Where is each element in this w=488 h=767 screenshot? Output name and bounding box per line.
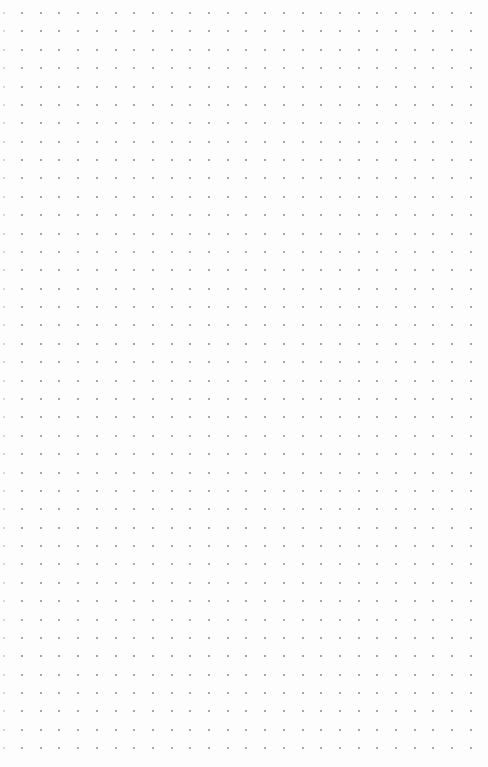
edge-dot — [3, 159, 5, 161]
grid-dot — [302, 729, 304, 731]
grid-dot — [58, 545, 60, 547]
grid-dot — [302, 122, 304, 124]
grid-dot — [264, 674, 266, 676]
grid-dot — [133, 288, 135, 290]
grid-dot — [40, 563, 42, 565]
grid-dot — [302, 251, 304, 253]
grid-dot — [227, 141, 229, 143]
grid-dot — [115, 86, 117, 88]
grid-dot — [339, 67, 341, 69]
grid-dot — [96, 233, 98, 235]
grid-dot — [414, 747, 416, 749]
grid-dot — [227, 30, 229, 32]
grid-dot — [189, 416, 191, 418]
grid-dot — [470, 710, 472, 712]
grid-dot — [171, 545, 173, 547]
grid-dot — [414, 233, 416, 235]
grid-dot — [414, 214, 416, 216]
grid-dot — [152, 692, 154, 694]
edge-dot — [3, 177, 5, 179]
grid-dot — [432, 214, 434, 216]
grid-dot — [302, 214, 304, 216]
grid-dot — [470, 30, 472, 32]
grid-dot — [21, 86, 23, 88]
grid-dot — [171, 747, 173, 749]
grid-dot — [339, 600, 341, 602]
grid-dot — [339, 49, 341, 51]
grid-dot — [376, 361, 378, 363]
grid-dot — [320, 582, 322, 584]
grid-dot — [133, 12, 135, 14]
grid-dot — [21, 563, 23, 565]
grid-dot — [208, 361, 210, 363]
grid-dot — [115, 159, 117, 161]
grid-dot — [395, 527, 397, 529]
grid-dot — [189, 582, 191, 584]
grid-dot — [470, 269, 472, 271]
grid-dot — [96, 435, 98, 437]
grid-dot — [40, 508, 42, 510]
grid-dot — [376, 306, 378, 308]
grid-dot — [152, 214, 154, 216]
grid-dot — [264, 361, 266, 363]
grid-dot — [171, 600, 173, 602]
grid-dot — [358, 416, 360, 418]
grid-dot — [283, 380, 285, 382]
grid-dot — [283, 527, 285, 529]
grid-dot — [58, 563, 60, 565]
grid-dot — [189, 527, 191, 529]
grid-dot — [227, 177, 229, 179]
grid-dot — [115, 435, 117, 437]
grid-dot — [320, 12, 322, 14]
grid-dot — [96, 472, 98, 474]
grid-dot — [58, 692, 60, 694]
grid-dot — [395, 159, 397, 161]
grid-dot — [115, 288, 117, 290]
grid-dot — [283, 416, 285, 418]
grid-dot — [264, 30, 266, 32]
grid-dot — [96, 508, 98, 510]
grid-dot — [40, 67, 42, 69]
grid-dot — [451, 655, 453, 657]
grid-dot — [302, 453, 304, 455]
grid-dot — [470, 637, 472, 639]
grid-dot — [283, 122, 285, 124]
grid-dot — [320, 453, 322, 455]
grid-dot — [21, 729, 23, 731]
grid-dot — [227, 416, 229, 418]
grid-dot — [339, 269, 341, 271]
grid-dot — [264, 637, 266, 639]
grid-dot — [77, 619, 79, 621]
grid-dot — [283, 343, 285, 345]
grid-dot — [133, 343, 135, 345]
grid-dot — [40, 416, 42, 418]
grid-dot — [58, 490, 60, 492]
grid-dot — [451, 490, 453, 492]
grid-dot — [58, 380, 60, 382]
grid-dot — [58, 159, 60, 161]
grid-dot — [152, 453, 154, 455]
grid-dot — [432, 747, 434, 749]
grid-dot — [115, 747, 117, 749]
grid-dot — [115, 269, 117, 271]
grid-dot — [320, 490, 322, 492]
grid-dot — [40, 710, 42, 712]
grid-dot — [451, 141, 453, 143]
grid-dot — [77, 361, 79, 363]
grid-dot — [414, 637, 416, 639]
grid-dot — [58, 196, 60, 198]
edge-dot — [3, 710, 5, 712]
grid-dot — [96, 380, 98, 382]
grid-dot — [208, 288, 210, 290]
grid-dot — [189, 435, 191, 437]
grid-dot — [40, 472, 42, 474]
grid-dot — [320, 177, 322, 179]
grid-dot — [470, 306, 472, 308]
grid-dot — [414, 251, 416, 253]
grid-dot — [227, 67, 229, 69]
grid-dot — [245, 233, 247, 235]
grid-dot — [358, 710, 360, 712]
grid-dot — [283, 104, 285, 106]
grid-dot — [115, 453, 117, 455]
grid-dot — [414, 545, 416, 547]
